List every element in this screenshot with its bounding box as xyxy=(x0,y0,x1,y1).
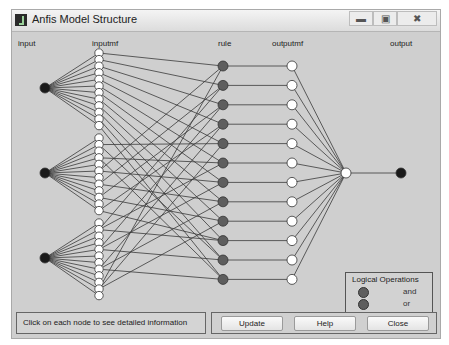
rule-node-9[interactable] xyxy=(218,216,228,226)
rule-node-7[interactable] xyxy=(218,177,228,187)
rule-node-8[interactable] xyxy=(218,197,228,207)
close-button[interactable]: Close xyxy=(367,316,429,331)
inputmf-node-24[interactable] xyxy=(95,206,103,214)
rule-node-5[interactable] xyxy=(218,139,228,149)
or-operator-icon xyxy=(358,299,369,310)
and-operator-icon xyxy=(358,287,369,298)
outputmf-node-8[interactable] xyxy=(287,197,297,207)
minimize-button[interactable]: ▬ xyxy=(349,11,373,26)
matlab-app-icon xyxy=(15,14,27,26)
anfis-network-graph xyxy=(12,32,440,302)
window-title: Anfis Model Structure xyxy=(32,13,137,25)
rule-node-10[interactable] xyxy=(218,236,228,246)
outputmf-node-11[interactable] xyxy=(287,255,297,265)
legend-or-label: or xyxy=(403,299,410,308)
rule-node-4[interactable] xyxy=(218,119,228,129)
title-bar[interactable]: Anfis Model Structure ▬ ▣ ✖ xyxy=(12,10,440,32)
inputmf-node-36[interactable] xyxy=(95,291,103,299)
status-text: Click on each node to see detailed infor… xyxy=(23,318,187,327)
close-window-button[interactable]: ✖ xyxy=(397,11,437,26)
input-node-1[interactable] xyxy=(40,83,50,93)
help-button[interactable]: Help xyxy=(294,316,356,331)
rule-node-12[interactable] xyxy=(218,274,228,284)
action-buttons: Update Help Close xyxy=(211,312,437,334)
outputmf-node-6[interactable] xyxy=(287,158,297,168)
rule-node-3[interactable] xyxy=(218,100,228,110)
outputmf-node-4[interactable] xyxy=(287,119,297,129)
anfis-window: Anfis Model Structure ▬ ▣ ✖ input inputm… xyxy=(11,9,441,339)
outputmf-node-3[interactable] xyxy=(287,100,297,110)
outputmf-node-1[interactable] xyxy=(287,61,297,71)
status-message-box: Click on each node to see detailed infor… xyxy=(16,312,206,334)
input-node-2[interactable] xyxy=(40,168,50,178)
output-node[interactable] xyxy=(396,168,406,178)
rule-node-11[interactable] xyxy=(218,255,228,265)
legend-and-label: and xyxy=(403,287,416,296)
input-node-3[interactable] xyxy=(40,253,50,263)
outputmf-node-7[interactable] xyxy=(287,177,297,187)
minimize-icon: ▬ xyxy=(356,13,366,24)
update-button[interactable]: Update xyxy=(221,316,283,331)
outputmf-node-5[interactable] xyxy=(287,139,297,149)
network-canvas: input inputmf rule outputmf output Logic… xyxy=(12,32,440,302)
rule-node-2[interactable] xyxy=(218,80,228,90)
maximize-button[interactable]: ▣ xyxy=(373,11,397,26)
maximize-icon: ▣ xyxy=(381,13,390,24)
close-icon: ✖ xyxy=(413,13,421,24)
outputmf-node-9[interactable] xyxy=(287,216,297,226)
rule-node-1[interactable] xyxy=(218,61,228,71)
outputmf-node-12[interactable] xyxy=(287,274,297,284)
legend-title: Logical Operations xyxy=(352,275,419,284)
rule-node-6[interactable] xyxy=(218,158,228,168)
outputmf-node-10[interactable] xyxy=(287,236,297,246)
inputmf-node-12[interactable] xyxy=(95,121,103,129)
aggregation-node[interactable] xyxy=(341,168,351,178)
outputmf-node-2[interactable] xyxy=(287,80,297,90)
